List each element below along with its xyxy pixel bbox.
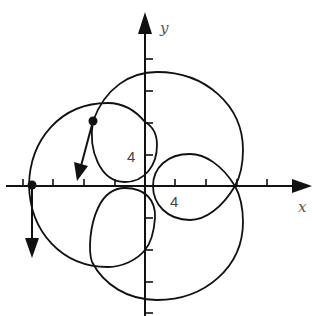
y-axis-label: y xyxy=(159,19,169,37)
axes: y x 4 4 xyxy=(6,12,312,316)
y-axis-arrowhead-icon xyxy=(138,12,152,34)
x-axis-label: x xyxy=(298,198,307,216)
curve-point-left-axis xyxy=(28,181,37,190)
point-left-axis xyxy=(25,181,39,259)
curve-point-upper-left xyxy=(89,117,98,126)
vector-arrowhead-icon xyxy=(25,238,39,258)
upper-left-loop xyxy=(92,121,157,182)
x-axis-arrowhead-icon xyxy=(292,179,312,193)
x-tick-label-4: 4 xyxy=(170,193,178,210)
y-tick-label-4: 4 xyxy=(127,148,135,165)
velocity-vector-upper-left xyxy=(81,121,93,166)
vector-arrowhead-icon xyxy=(74,162,88,181)
lower-outer-arc xyxy=(92,186,243,300)
parametric-curve-diagram: y x 4 4 xyxy=(0,0,312,316)
